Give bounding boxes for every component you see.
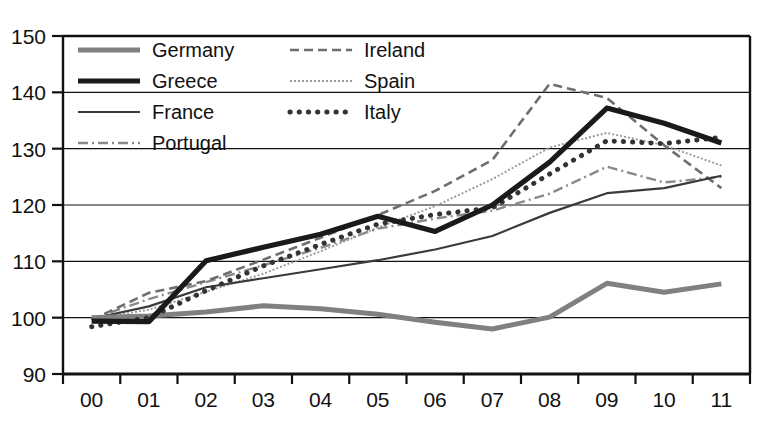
line-chart: 90100110120130140150 0001020304050607080… — [0, 0, 775, 427]
y-tick-label: 90 — [23, 363, 46, 386]
x-tick-label: 02 — [194, 388, 217, 411]
y-tick-label: 150 — [11, 25, 46, 48]
x-tick-label: 01 — [137, 388, 160, 411]
x-tick-label: 07 — [481, 388, 504, 411]
x-tick-label: 08 — [538, 388, 561, 411]
legend-label-greece: Greece — [152, 70, 218, 92]
legend-label-italy: Italy — [364, 101, 401, 123]
y-tick-label: 130 — [11, 138, 46, 161]
x-tick-label: 06 — [423, 388, 446, 411]
x-tick-label: 09 — [595, 388, 618, 411]
legend-label-france: France — [152, 101, 214, 123]
x-tick-label: 10 — [652, 388, 675, 411]
x-tick-label: 03 — [252, 388, 275, 411]
y-tick-label: 120 — [11, 194, 46, 217]
y-axis: 90100110120130140150 — [11, 25, 63, 386]
x-tick-label: 00 — [80, 388, 103, 411]
y-tick-label: 140 — [11, 81, 46, 104]
legend-label-germany: Germany — [152, 39, 234, 61]
x-tick-label: 05 — [366, 388, 389, 411]
x-axis: 000102030405060708091011 — [63, 374, 750, 411]
legend-label-ireland: Ireland — [364, 39, 425, 61]
chart-canvas: 90100110120130140150 0001020304050607080… — [0, 0, 775, 427]
legend-label-spain: Spain — [364, 70, 415, 92]
x-tick-label: 11 — [710, 388, 732, 411]
y-tick-label: 110 — [13, 250, 46, 273]
x-tick-label: 04 — [309, 388, 333, 411]
y-tick-label: 100 — [11, 307, 46, 330]
legend-label-portugal: Portugal — [152, 132, 227, 154]
